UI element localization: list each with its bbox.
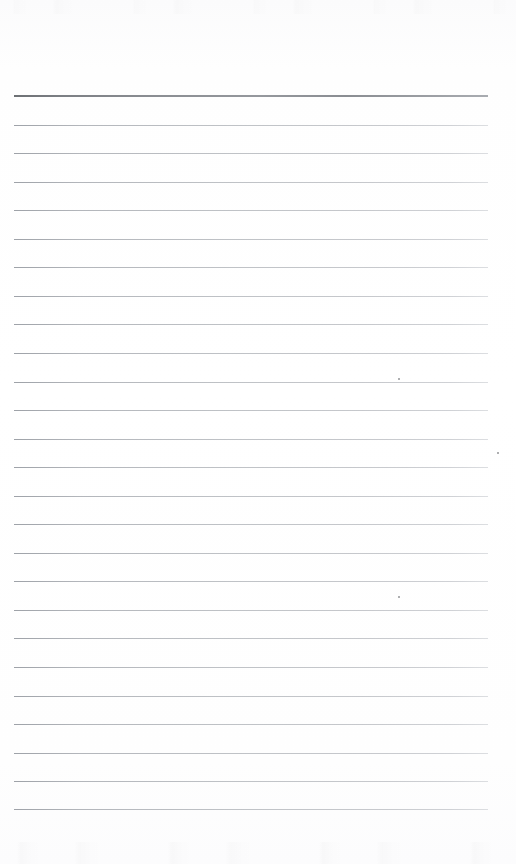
scan-noise-bottom-band (0, 842, 516, 864)
rule-line-ink (14, 153, 488, 154)
rule-line (14, 523, 488, 525)
rule-line-ink (14, 753, 488, 754)
rule-line (14, 466, 488, 468)
rule-line (14, 238, 488, 240)
rule-line-ink (14, 667, 488, 668)
rule-line (14, 780, 488, 782)
rule-line-ink (14, 638, 488, 639)
rule-line-ink (14, 267, 488, 268)
rule-line-ink (14, 410, 488, 411)
rule-line (14, 637, 488, 639)
rule-line (14, 666, 488, 668)
rule-line-ink (14, 439, 488, 440)
rule-line-ink (14, 496, 488, 497)
rule-line-ink (14, 382, 488, 383)
rule-line (14, 752, 488, 754)
rule-line (14, 609, 488, 611)
rule-line (14, 723, 488, 725)
rule-line-ink (14, 324, 488, 325)
rule-line (14, 266, 488, 268)
rule-line (14, 295, 488, 297)
rule-line (14, 552, 488, 554)
rule-line (14, 495, 488, 497)
rule-line-ink (14, 696, 488, 697)
rule-line-ink (14, 610, 488, 611)
rule-line-ink (14, 524, 488, 525)
header-rule-line (14, 95, 488, 98)
rule-line-ink (14, 809, 488, 810)
rule-line (14, 381, 488, 383)
rule-line-ink (14, 724, 488, 725)
rule-line-ink (14, 467, 488, 468)
rule-line-ink (14, 125, 488, 126)
rule-line-ink (14, 95, 488, 97)
scanned-page (0, 0, 516, 864)
rule-line (14, 808, 488, 810)
rule-line (14, 695, 488, 697)
rule-line (14, 352, 488, 354)
rule-line-ink (14, 210, 488, 211)
rule-line-ink (14, 353, 488, 354)
rule-line (14, 438, 488, 440)
rule-line-ink (14, 553, 488, 554)
rule-line-ink (14, 581, 488, 582)
rule-line (14, 181, 488, 183)
rule-line (14, 409, 488, 411)
rule-line (14, 124, 488, 126)
ruled-lines-area (14, 93, 488, 813)
rule-line-ink (14, 296, 488, 297)
rule-line (14, 152, 488, 154)
rule-line (14, 209, 488, 211)
rule-line (14, 323, 488, 325)
scan-speck (497, 452, 499, 454)
rule-line-ink (14, 781, 488, 782)
rule-line-ink (14, 239, 488, 240)
scan-noise-top-band (0, 0, 516, 14)
rule-line (14, 580, 488, 582)
rule-line-ink (14, 182, 488, 183)
